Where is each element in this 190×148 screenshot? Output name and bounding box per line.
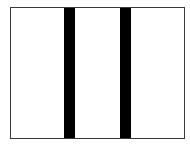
three-column-layout-icon xyxy=(10,7,185,139)
column-divider-bar-1 xyxy=(64,8,75,138)
column-divider-bar-2 xyxy=(120,8,131,138)
